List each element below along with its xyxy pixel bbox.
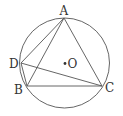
label-o: O [68,57,78,71]
segment-ad [21,18,64,63]
label-d: D [9,57,19,71]
label-b: B [14,83,23,97]
segment-ac [64,18,102,86]
label-a: A [59,4,69,18]
segment-ab [27,18,64,86]
geometry-diagram: A B C D O [0,0,123,116]
center-dot-o [64,62,67,65]
label-c: C [105,81,114,95]
